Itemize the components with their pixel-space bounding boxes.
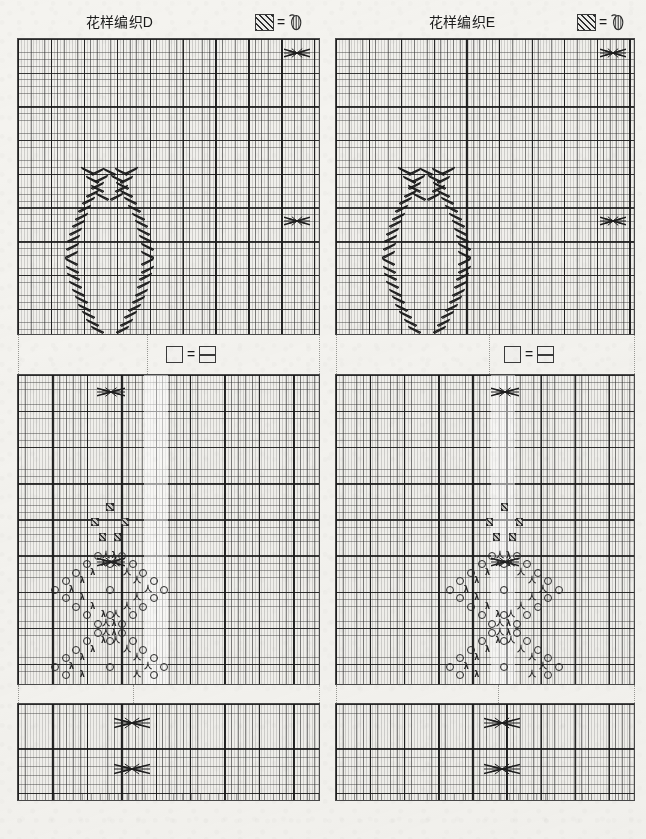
bobble-cell bbox=[493, 533, 500, 541]
connector-line bbox=[133, 685, 134, 703]
decrease-icon: λ bbox=[80, 577, 85, 585]
chart-d-bottom[interactable] bbox=[17, 703, 320, 801]
traveling-stitch-icon bbox=[420, 162, 433, 171]
decrease-icon: 人 bbox=[528, 654, 536, 662]
motif-lace-diamond-e: λ人λ人λ人λ人λ人λ人λ人λ人λ人λ人λ人λ人λ人λ人λ人 bbox=[336, 375, 634, 684]
legend-top-d: = bbox=[255, 12, 303, 32]
traveling-stitch-icon bbox=[120, 313, 133, 322]
yarn-over-icon bbox=[150, 671, 158, 679]
chart-d-middle[interactable]: λ人λ人λ人λ人λ人λ人λ人λ人λ人λ人λ人λ人λ人λ人λ人 bbox=[17, 374, 320, 685]
traveling-stitch-icon bbox=[128, 298, 141, 307]
yarn-over-icon bbox=[500, 560, 508, 568]
traveling-stitch-icon bbox=[437, 313, 450, 322]
traveling-stitch-icon bbox=[458, 260, 471, 269]
decrease-icon: λ bbox=[485, 569, 490, 577]
page-title-d: 花样编织D bbox=[86, 11, 153, 31]
decrease-icon: 人 bbox=[133, 671, 141, 679]
traveling-stitch-icon bbox=[115, 162, 128, 171]
yarn-over-icon bbox=[555, 586, 563, 594]
yarn-over-icon bbox=[456, 594, 464, 602]
decrease-icon: λ bbox=[485, 646, 490, 654]
decrease-icon: 人 bbox=[539, 586, 547, 594]
connector-line bbox=[336, 685, 337, 703]
traveling-stitch-icon bbox=[67, 267, 80, 276]
traveling-stitch-icon bbox=[141, 252, 154, 261]
decrease-icon: 人 bbox=[517, 646, 525, 654]
yarn-over-icon bbox=[106, 586, 114, 594]
yarn-over-icon bbox=[555, 663, 563, 671]
traveling-stitch-icon bbox=[91, 179, 104, 188]
traveling-stitch-icon bbox=[454, 275, 467, 284]
traveling-stitch-icon bbox=[384, 267, 397, 276]
chart-e-bottom[interactable] bbox=[335, 703, 635, 801]
traveling-stitch-icon bbox=[441, 305, 454, 314]
decrease-icon: 人 bbox=[123, 603, 131, 611]
traveling-stitch-icon bbox=[69, 222, 82, 231]
decrease-icon: λ bbox=[69, 586, 74, 594]
traveling-stitch-icon bbox=[110, 187, 123, 196]
bobble-icon bbox=[610, 13, 625, 31]
yarn-over-icon bbox=[488, 620, 496, 628]
traveling-stitch-icon bbox=[408, 176, 421, 185]
traveling-stitch-icon bbox=[66, 237, 79, 246]
traveling-stitch-icon bbox=[111, 169, 124, 178]
decrease-icon: λ bbox=[464, 663, 469, 671]
traveling-stitch-icon bbox=[115, 331, 128, 335]
traveling-stitch-icon bbox=[442, 161, 455, 170]
traveling-stitch-icon bbox=[139, 267, 152, 276]
traveling-stitch-icon bbox=[403, 170, 416, 179]
traveling-stitch-icon bbox=[65, 245, 78, 254]
traveling-stitch-icon bbox=[454, 222, 467, 231]
yarn-over-icon bbox=[83, 611, 91, 619]
traveling-stitch-icon bbox=[132, 207, 145, 216]
traveling-stitch-icon bbox=[413, 187, 426, 196]
decrease-icon: λ bbox=[474, 654, 479, 662]
connector-line bbox=[147, 335, 148, 374]
yarn-over-icon bbox=[129, 611, 137, 619]
traveling-stitch-icon bbox=[141, 245, 154, 254]
traveling-stitch-icon bbox=[445, 298, 458, 307]
traveling-stitch-icon bbox=[91, 320, 104, 329]
traveling-stitch-icon bbox=[432, 331, 445, 335]
traveling-stitch-icon bbox=[116, 176, 129, 185]
decrease-icon: λ bbox=[474, 594, 479, 602]
yarn-over-icon bbox=[500, 663, 508, 671]
chart-d-top[interactable] bbox=[17, 38, 320, 335]
decrease-icon: 人 bbox=[123, 569, 131, 577]
traveling-stitch-icon bbox=[382, 245, 395, 254]
traveling-stitch-icon bbox=[404, 313, 417, 322]
traveling-stitch-icon bbox=[399, 305, 412, 314]
yarn-over-icon bbox=[106, 663, 114, 671]
bobble-cell bbox=[121, 518, 128, 526]
yarn-over-icon bbox=[62, 594, 70, 602]
yarn-over-icon bbox=[544, 671, 552, 679]
pattern-column-d: 花样编织D = = bbox=[0, 0, 324, 839]
connector-line bbox=[319, 685, 320, 703]
decrease-icon: 人 bbox=[517, 569, 525, 577]
yarn-over-icon bbox=[51, 586, 59, 594]
motif-lace-diamond-d: λ人λ人λ人λ人λ人λ人λ人λ人λ人λ人λ人λ人λ人λ人λ人 bbox=[18, 375, 319, 684]
panel-header-e: 花样编织E = bbox=[325, 11, 646, 35]
decrease-icon: 人 bbox=[144, 586, 152, 594]
yarn-over-icon bbox=[150, 594, 158, 602]
chart-e-middle[interactable]: λ人λ人λ人λ人λ人λ人λ人λ人λ人λ人λ人λ人λ人λ人λ人 bbox=[335, 374, 635, 685]
panel-header-d: 花样编织D = bbox=[0, 11, 324, 35]
traveling-stitch-icon bbox=[82, 305, 95, 314]
yarn-over-icon bbox=[467, 603, 475, 611]
traveling-stitch-icon bbox=[437, 184, 450, 193]
traveling-stitch-icon bbox=[389, 214, 402, 223]
traveling-stitch-icon bbox=[120, 184, 133, 193]
traveling-stitch-icon bbox=[408, 320, 421, 329]
traveling-stitch-icon bbox=[427, 187, 440, 196]
traveling-stitch-icon bbox=[386, 222, 399, 231]
traveling-stitch-icon bbox=[103, 331, 116, 335]
purl-square-icon bbox=[199, 346, 216, 363]
motif-cable-cross-d bbox=[18, 704, 319, 800]
chart-e-top[interactable] bbox=[335, 38, 635, 335]
traveling-stitch-icon bbox=[103, 162, 116, 171]
hatched-square-icon bbox=[255, 14, 274, 31]
decrease-icon: λ bbox=[80, 654, 85, 662]
decrease-icon: λ bbox=[474, 671, 479, 679]
decrease-icon: λ bbox=[90, 603, 95, 611]
traveling-stitch-icon bbox=[91, 331, 104, 335]
